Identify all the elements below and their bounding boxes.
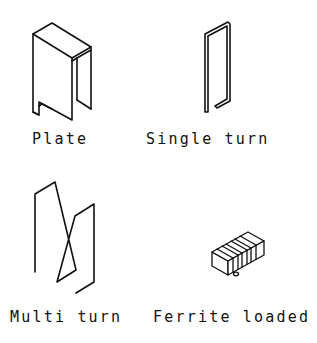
single-turn-label: Single turn bbox=[146, 130, 270, 148]
single-turn-illustration bbox=[205, 22, 230, 112]
multi-turn-illustration bbox=[35, 182, 94, 293]
ferrite-loaded-label: Ferrite loaded bbox=[153, 308, 310, 326]
plate-label: Plate bbox=[32, 130, 88, 148]
ferrite-loaded-illustration bbox=[212, 232, 264, 276]
plate-illustration bbox=[33, 23, 91, 120]
antenna-types-diagram bbox=[0, 0, 317, 343]
multi-turn-label: Multi turn bbox=[10, 308, 122, 326]
